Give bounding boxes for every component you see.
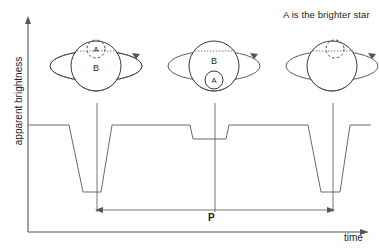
x-axis bbox=[28, 229, 369, 235]
star-B-label-left: B bbox=[89, 63, 103, 73]
orbit-arrow-right bbox=[368, 53, 376, 59]
star-B-label-middle: B bbox=[207, 56, 221, 66]
y-axis-label: apparent brightness bbox=[14, 46, 24, 156]
orbit-arrow-middle bbox=[250, 53, 258, 59]
y-axis bbox=[25, 16, 31, 232]
star-A-label-left: A bbox=[90, 45, 102, 54]
panel-primary-eclipse-middle bbox=[168, 41, 260, 212]
x-axis-label: time bbox=[344, 233, 363, 243]
star-A-label-middle: A bbox=[208, 76, 220, 85]
orbit-arrow-left bbox=[132, 53, 140, 59]
eclipsing-binary-light-curve-figure: A is the brighter star time apparent bri… bbox=[0, 0, 379, 250]
period-label: P bbox=[208, 213, 215, 223]
light-curve-line bbox=[28, 125, 371, 192]
panel-secondary-eclipse-right bbox=[286, 40, 378, 212]
note-a-is-brighter-star: A is the brighter star bbox=[283, 10, 370, 20]
diagram-canvas bbox=[0, 0, 379, 250]
